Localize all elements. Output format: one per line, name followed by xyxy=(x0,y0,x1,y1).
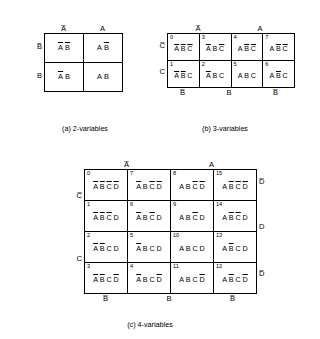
kmap4-bottom-header-2: B̅ xyxy=(211,294,254,303)
kmap-cell-number: 0 xyxy=(87,170,90,177)
kmap4-bottom-header-0: B̅ xyxy=(84,294,127,303)
kmap-cell-number: 5 xyxy=(234,61,237,68)
term-literal-D-negated: D xyxy=(199,275,204,284)
kmap3-caption: (b) 3-variables xyxy=(150,124,295,133)
term-literal-A-negated: A xyxy=(93,244,98,253)
kmap-cell-5[interactable]: 5A B C D xyxy=(128,232,171,263)
term-literal-C: C xyxy=(192,275,197,284)
kmap-cell-1[interactable]: 1A B C D xyxy=(85,201,128,232)
kmap-cell-12[interactable]: 12A B C D xyxy=(214,263,257,294)
kmap-cell-7[interactable]: 7A B C xyxy=(263,34,295,61)
term-literal-C-negated: C xyxy=(192,213,197,222)
term-literal-C: C xyxy=(219,72,224,80)
kmap2-body: A BA BA BA B xyxy=(45,34,123,92)
term-literal-A: A xyxy=(238,45,243,53)
term-literal-B-negated: B xyxy=(229,182,234,191)
term-literal-A-negated: A xyxy=(136,213,141,222)
kmap2-grid: A BA BA BA B xyxy=(44,33,123,92)
kmap-cell-number: 1 xyxy=(87,201,90,208)
term-literal-B-negated: B xyxy=(244,45,249,53)
kmap-cell-5[interactable]: 5A B C xyxy=(231,61,263,88)
term-literal-C: C xyxy=(187,72,192,80)
kmap4-left-header-0: C̅ xyxy=(70,191,82,200)
kmap-cell-number: 7 xyxy=(130,170,133,177)
term-literal-C-negated: C xyxy=(283,45,288,53)
kmap-cell-number: 11 xyxy=(173,263,179,270)
term-literal-A: A xyxy=(179,213,184,222)
kmap-cell-7[interactable]: 7A B C D xyxy=(128,170,171,201)
kmap4-bottom-headers: B̅ B B̅ xyxy=(84,294,254,303)
term-literal-A-negated: A xyxy=(58,72,63,81)
kmap-cell-13[interactable]: 13A B C D xyxy=(214,232,257,263)
term-literal-A: A xyxy=(222,244,227,253)
term-literal-C-negated: C xyxy=(149,213,154,222)
kmap-cell-11[interactable]: 11A B C D xyxy=(171,263,214,294)
kmap-cell[interactable]: A B xyxy=(84,63,123,92)
kmap3-bottom-header-2: B̅ xyxy=(260,88,291,97)
term-literal-D-negated: D xyxy=(156,275,161,284)
term-literal-B: B xyxy=(186,213,191,222)
term-literal-D: D xyxy=(113,244,118,253)
kmap-cell-0[interactable]: 0A B C xyxy=(168,34,200,61)
term-literal-C-negated: C xyxy=(219,45,224,53)
kmap-cell-3[interactable]: 3A B C xyxy=(199,34,231,61)
term-literal-A: A xyxy=(269,72,274,80)
kmap-cell-term: A B C D xyxy=(85,244,127,253)
kmap-cell-term: A B C D xyxy=(214,182,256,191)
kmap-cell-0[interactable]: 0A B C D xyxy=(85,170,128,201)
kmap-cell-term: A B C D xyxy=(128,275,170,284)
kmap-cell-4[interactable]: 4A B C D xyxy=(128,263,171,294)
kmap-cell[interactable]: A B xyxy=(45,34,84,63)
term-literal-B: B xyxy=(186,182,191,191)
kmap-cell-number: 3 xyxy=(87,263,90,270)
kmap-cell-term: A B C xyxy=(232,72,263,80)
kmap-cell-term: A B C xyxy=(232,45,263,53)
kmap-row: 0A B C3A B C4A B C7A B C xyxy=(168,34,295,61)
term-literal-A: A xyxy=(269,45,274,53)
kmap-cell-9[interactable]: 9A B C D xyxy=(171,201,214,232)
kmap3-bottom-header-1: B xyxy=(198,88,260,97)
kmap-2-variables: A̅ A B̅ B A BA BA BA B xyxy=(44,24,123,92)
term-literal-A: A xyxy=(97,43,102,52)
kmap-cell-8[interactable]: 8A B C D xyxy=(171,170,214,201)
term-literal-A: A xyxy=(179,182,184,191)
kmap-4-variables: A̅ A C̅ C D̅ D D̅ 0A B C D7A B C D8A B C… xyxy=(84,160,257,303)
kmap-cell-10[interactable]: 10A B C D xyxy=(171,232,214,263)
kmap-cell-3[interactable]: 3A B C D xyxy=(85,263,128,294)
kmap-cell-term: A B C D xyxy=(128,182,170,191)
kmap3-top-headers: A̅ A xyxy=(167,24,291,33)
term-literal-B: B xyxy=(186,244,191,253)
kmap-cell-2[interactable]: 2A B C xyxy=(199,61,231,88)
kmap-cell-number: 7 xyxy=(265,34,268,41)
kmap-cell-number: 14 xyxy=(216,201,222,208)
kmap2-col-header-0: A̅ xyxy=(44,24,83,33)
term-literal-B-negated: B xyxy=(276,45,281,53)
kmap-cell-term: A B C xyxy=(200,72,231,80)
kmap-cell-6[interactable]: 6A B C xyxy=(263,61,295,88)
kmap3-top-header-0: A̅ xyxy=(167,24,229,33)
kmap-cell-6[interactable]: 6A B C D xyxy=(128,201,171,232)
kmap-cell-2[interactable]: 2A B C D xyxy=(85,232,128,263)
kmap4-right-header-0: D̅ xyxy=(259,177,271,186)
term-literal-B: B xyxy=(143,275,148,284)
kmap3-bottom-header-0: B̅ xyxy=(167,88,198,97)
term-literal-C-negated: C xyxy=(235,182,240,191)
term-literal-B-negated: B xyxy=(229,213,234,222)
term-literal-A-negated: A xyxy=(174,72,179,80)
kmap-cell-number: 9 xyxy=(173,201,176,208)
kmap-cell-1[interactable]: 1A B C xyxy=(168,61,200,88)
kmap4-bottom-header-1: B xyxy=(127,294,211,303)
kmap-cell[interactable]: A B xyxy=(84,34,123,63)
term-literal-B: B xyxy=(143,182,148,191)
kmap-cell-number: 5 xyxy=(130,232,133,239)
kmap-cell-4[interactable]: 4A B C xyxy=(231,34,263,61)
kmap-cell-15[interactable]: 15A B C D xyxy=(214,170,257,201)
term-literal-C: C xyxy=(192,244,197,253)
kmap-cell-14[interactable]: 14A B C D xyxy=(214,201,257,232)
term-literal-B-negated: B xyxy=(181,45,186,53)
term-literal-B-negated: B xyxy=(181,72,186,80)
kmap-cell[interactable]: A B xyxy=(45,63,84,92)
term-literal-B-negated: B xyxy=(104,43,109,52)
term-literal-D: D xyxy=(113,213,118,222)
term-literal-D: D xyxy=(199,213,204,222)
